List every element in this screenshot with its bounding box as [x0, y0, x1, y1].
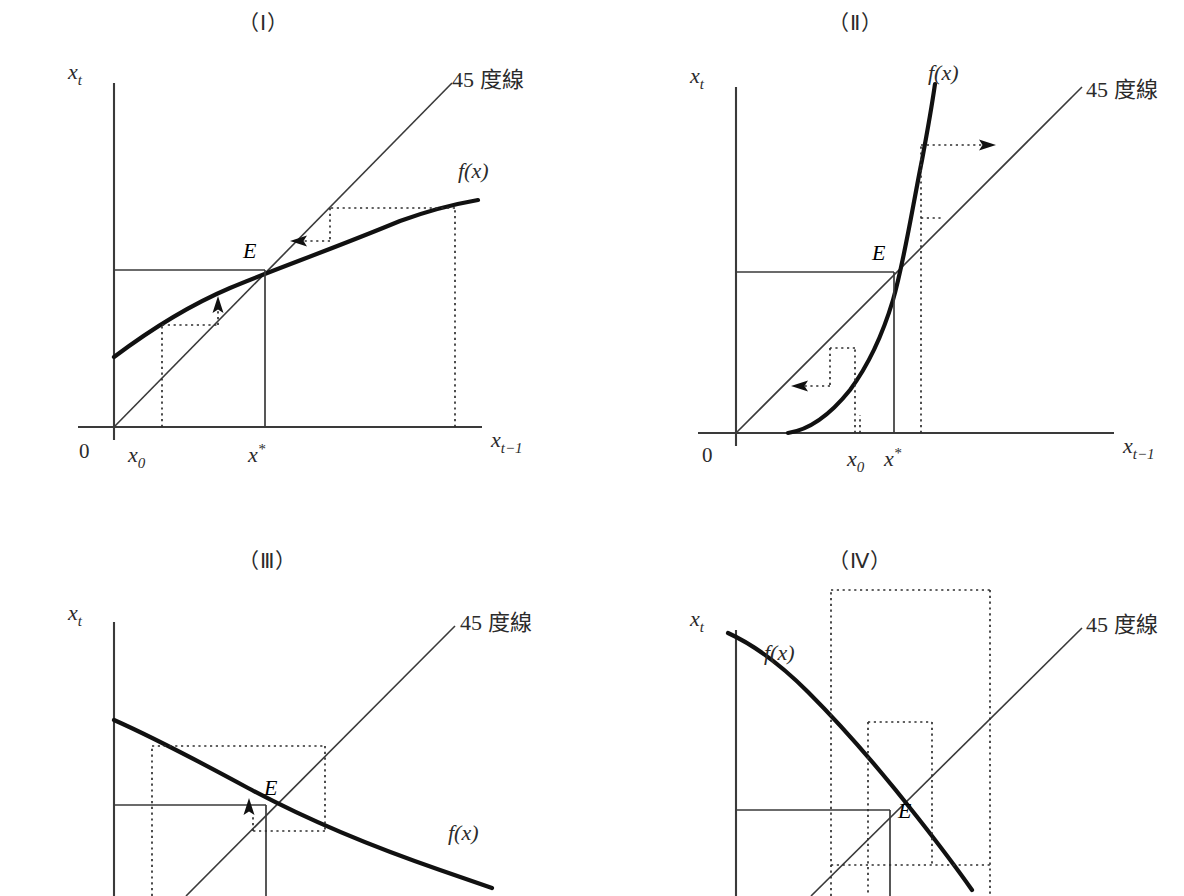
- panel-4-y-axis-label: xt: [689, 606, 705, 635]
- panel-2-arrow-right-icon: [979, 140, 996, 151]
- panel-3-45-line-label: 45 度線: [460, 610, 532, 635]
- panel-3-y-axis-label: xt: [67, 600, 83, 629]
- panel-2-x-axis-label: xt−1: [1122, 433, 1155, 462]
- panel-3-chart: xt 45 度線 f(x) E: [0, 540, 592, 896]
- panel-1-equilibrium-label: E: [242, 238, 257, 263]
- panel-1-x-axis-label: xt−1: [490, 427, 523, 456]
- panel-3-45-line: [186, 626, 455, 896]
- panel-4-fx-curve: [728, 633, 972, 890]
- panel-2-xstar-label: x*: [883, 445, 902, 471]
- panel-3-title: （Ⅲ）: [238, 544, 297, 574]
- panel-4: （Ⅳ） xt 45 度線 f(x) E: [592, 540, 1184, 896]
- panel-4-chart: xt 45 度線 f(x) E: [592, 540, 1184, 896]
- panel-3: （Ⅲ） xt 45 度線 f(x) E: [0, 540, 592, 896]
- panel-1-xstar-label: x*: [247, 441, 266, 467]
- panel-2-45-line: [736, 87, 1082, 433]
- panel-3-arrow-up-icon: [244, 798, 255, 815]
- panel-1-title: （Ⅰ）: [238, 6, 289, 36]
- panel-1-arrow-up-icon: [213, 296, 224, 313]
- panel-2-equilibrium-label: E: [871, 240, 886, 265]
- panel-4-equilibrium-label: E: [897, 798, 912, 823]
- panel-4-45-line-label: 45 度線: [1086, 612, 1158, 637]
- panel-2-chart: xt xt−1 45 度線 f(x) E 0 x0 x*: [592, 0, 1184, 480]
- panel-2-origin-label: 0: [702, 443, 713, 467]
- panel-2: （Ⅱ） xt x: [592, 0, 1184, 480]
- panel-2-y-axis-label: xt: [689, 63, 705, 92]
- panel-2-title: （Ⅱ）: [828, 6, 883, 36]
- panel-4-title: （Ⅳ）: [828, 544, 892, 574]
- panel-2-45-line-label: 45 度線: [1086, 77, 1158, 102]
- figure-sheet: （Ⅰ）: [0, 0, 1184, 896]
- panel-1-x0-label: x0: [127, 442, 146, 471]
- panel-1-origin-label: 0: [79, 439, 90, 463]
- panel-2-fx-curve: [788, 84, 935, 433]
- panel-1: （Ⅰ）: [0, 0, 592, 480]
- panel-1-chart: xt xt−1 45 度線 f(x) E 0 x0 x*: [0, 0, 592, 480]
- panel-1-fx-label: f(x): [458, 158, 489, 183]
- panel-2-x0-label: x0: [846, 446, 865, 475]
- panel-2-fx-label: f(x): [928, 60, 959, 85]
- panel-3-equilibrium-label: E: [263, 775, 278, 800]
- panel-1-fx-curve: [114, 200, 478, 357]
- panel-1-y-axis-label: xt: [67, 59, 83, 88]
- panel-1-45-line: [114, 83, 452, 427]
- panel-1-45-line-label: 45 度線: [452, 67, 524, 92]
- panel-3-fx-label: f(x): [448, 820, 479, 845]
- panel-4-fx-label: f(x): [764, 640, 795, 665]
